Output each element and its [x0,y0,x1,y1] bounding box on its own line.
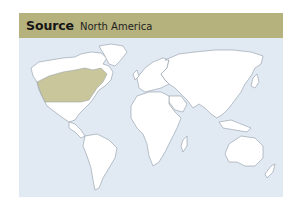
island-madagascar [181,136,187,152]
island-new-zealand [265,164,275,178]
island-japan [251,74,259,88]
islands-southeast-asia [219,120,251,132]
panel-subtitle: North America [80,21,152,32]
world-map [19,38,283,197]
panel-header: Source North America [19,13,283,38]
source-panel: Source North America [19,13,283,197]
continent-south-america [83,134,117,190]
world-map-graphic [19,38,283,197]
continent-australia [225,136,263,166]
panel-title: Source [26,18,74,33]
continent-central-america [69,122,85,138]
